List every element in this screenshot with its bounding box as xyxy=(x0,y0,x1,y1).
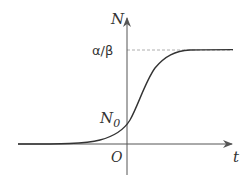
origin-label: O xyxy=(111,149,123,165)
x-axis-label: t xyxy=(233,148,240,166)
n0-label: N0 xyxy=(99,109,120,130)
logistic-growth-diagram: N α/β N0 O t xyxy=(0,0,249,182)
asymptote-label: α/β xyxy=(92,43,113,58)
n0-label-sub: 0 xyxy=(113,117,120,130)
logistic-curve xyxy=(18,50,233,144)
y-axis-label: N xyxy=(110,10,125,28)
n0-label-main: N xyxy=(99,109,114,127)
